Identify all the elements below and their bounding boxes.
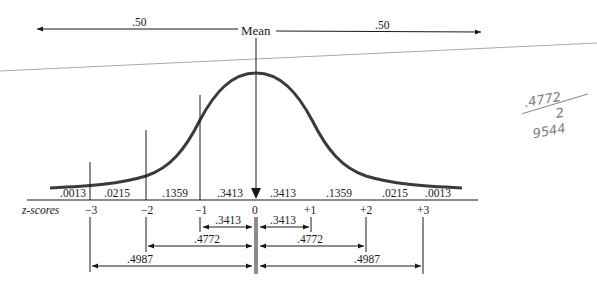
span-label: .3413	[270, 214, 296, 226]
area-label: .0215	[104, 187, 130, 199]
span-label: .4987	[127, 253, 153, 265]
left-half-label: .50	[132, 16, 147, 28]
area-label: .3413	[270, 187, 296, 199]
z-tick-label: −3	[85, 204, 97, 216]
mean-arrowhead	[251, 188, 261, 199]
area-label: .0215	[382, 187, 408, 199]
z-axis-label: z-scores	[21, 204, 60, 216]
span-label: .3413	[215, 214, 241, 226]
span-label: .4772	[297, 233, 323, 245]
z-tick-label: 0	[252, 204, 258, 216]
right-half-label: .50	[375, 19, 390, 31]
area-label: .0013	[425, 187, 451, 199]
z-tick-label: −2	[141, 204, 153, 216]
area-label: .1359	[326, 187, 352, 199]
handwritten-note: .4772 2 9544	[519, 84, 594, 142]
normal-distribution-diagram: .50 .50 Mean .0013 .0215 .1359 .3413 .34…	[0, 0, 597, 290]
right-half-arrow	[276, 31, 481, 32]
mean-label: Mean	[241, 23, 271, 38]
stray-gray-line	[0, 43, 597, 71]
z-tick-label: +1	[304, 204, 316, 216]
z-tick-label: +2	[360, 204, 372, 216]
z-tick-label: −1	[195, 204, 207, 216]
span-label: .4772	[194, 233, 220, 245]
span-label: .4987	[354, 253, 380, 265]
area-label: .1359	[162, 187, 188, 199]
z-tick-label: +3	[417, 204, 429, 216]
area-label: .0013	[60, 187, 86, 199]
svg-text:9544: 9544	[531, 121, 566, 142]
svg-text:2: 2	[554, 105, 565, 121]
area-label: .3413	[217, 187, 243, 199]
